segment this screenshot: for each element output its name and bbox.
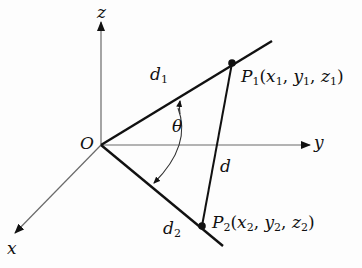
p2-x-sub: 2 [247,221,254,234]
origin-label: O [80,135,94,152]
p2-comma1: , [254,212,265,232]
p1-comma2: , [310,66,321,86]
x-axis [15,145,101,233]
p1-close: ) [337,66,344,86]
p2-x: x [237,212,247,232]
p1-x-sub: 1 [276,75,283,88]
d2-main: d [163,218,174,238]
p1-z-sub: 1 [330,75,337,88]
p1-z: z [321,66,330,86]
y-axis-label: y [314,134,324,151]
d1-label: d1 [150,66,168,85]
d2-label: d2 [163,220,181,239]
z-axis-label: z [97,4,106,21]
d1-sub: 1 [161,73,168,86]
d2-sub: 2 [174,227,181,240]
p1-x: x [266,66,276,86]
p1-label: P1(x1, y1, z1) [241,68,344,87]
p2-close: ) [308,212,315,232]
p2-z-sub: 2 [301,221,308,234]
p1-y: y [294,66,304,86]
line-d1 [101,41,272,145]
p2-z: z [292,212,301,232]
line-d2 [101,145,223,246]
x-axis-label: x [7,240,17,257]
theta-label: θ [172,118,182,135]
d-label: d [220,158,231,175]
p1-comma1: , [283,66,294,86]
p2-name: P [212,212,223,232]
diagram-canvas: z y x O d1 d2 d θ P1(x1, y1, z1) P2(x2, … [0,0,362,268]
d1-main: d [150,64,161,84]
p2-comma2: , [281,212,292,232]
point-p1 [228,59,236,67]
point-p2 [198,222,206,230]
p2-label: P2(x2, y2, z2) [212,214,315,233]
theta-arc-top [180,101,181,114]
p2-y: y [265,212,275,232]
p1-name: P [241,66,252,86]
